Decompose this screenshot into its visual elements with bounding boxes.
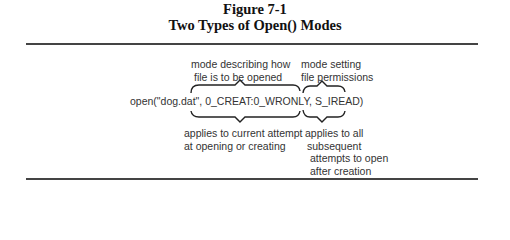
bottom-brace-mode-open bbox=[191, 111, 300, 122]
annotation-line: applies to current attempt bbox=[184, 127, 302, 140]
bottom-brace-permissions bbox=[303, 110, 345, 122]
code-line: open("dog.dat", 0_CREAT:0_WRONLY, S_IREA… bbox=[130, 95, 363, 108]
bottom-rule bbox=[26, 178, 478, 180]
annotation-line: subsequent bbox=[305, 140, 388, 153]
annotation-line: applies to all bbox=[305, 127, 388, 140]
annotation-bottom-left: applies to current attempt at opening or… bbox=[184, 127, 302, 152]
top-brace-permissions bbox=[303, 81, 345, 93]
annotation-bottom-right: applies to all subsequent attempts to op… bbox=[305, 127, 388, 177]
top-brace-mode-open bbox=[191, 80, 300, 93]
annotation-line: attempts to open bbox=[305, 152, 388, 165]
annotation-line: after creation bbox=[305, 165, 388, 178]
annotation-line: at opening or creating bbox=[184, 140, 302, 153]
